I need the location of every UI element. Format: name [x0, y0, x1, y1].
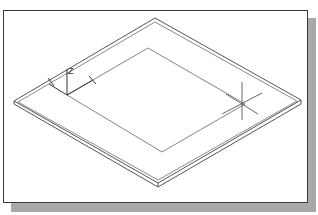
plate-inner-outline — [67, 48, 245, 152]
x-axis-line — [67, 80, 93, 95]
isometric-drawing: Z — [0, 0, 318, 215]
x-axis-tick-icon — [89, 76, 96, 84]
z-axis-label: Z — [68, 66, 74, 76]
y-axis-line — [49, 84, 67, 95]
plate-outer-edge — [14, 18, 301, 187]
